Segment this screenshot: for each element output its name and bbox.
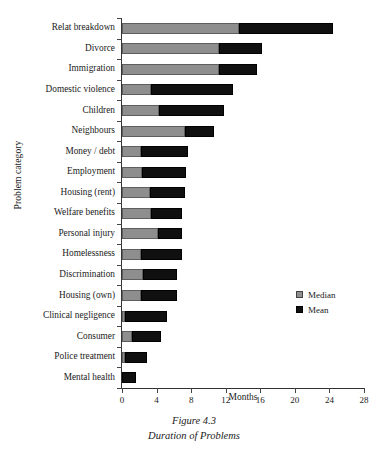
bar-segment-median [122, 228, 158, 239]
y-tick-mark [117, 285, 122, 286]
y-tick-mark [117, 224, 122, 225]
category-label: Personal injury [58, 227, 115, 240]
bar-segment-mean [151, 208, 181, 219]
bar-row: Employment [122, 167, 364, 178]
bar-segment-median [122, 23, 239, 34]
bar-segment-mean [219, 43, 262, 54]
category-label: Relat breakdown [52, 21, 115, 34]
category-label: Money / debt [65, 145, 115, 158]
legend-label-mean: Mean [308, 305, 329, 315]
bar-segment-mean [159, 105, 224, 116]
bar-row: Domestic violence [122, 84, 364, 95]
bar-segment-mean [142, 167, 186, 178]
y-tick-mark [117, 39, 122, 40]
y-tick-mark [117, 59, 122, 60]
legend-item-mean: Mean [296, 303, 336, 316]
y-tick-mark [117, 80, 122, 81]
bar-segment-mean [150, 187, 185, 198]
category-label: Divorce [85, 42, 115, 55]
bar-segment-mean [141, 146, 188, 157]
bar-row: Mental health [122, 372, 364, 383]
y-tick-mark [117, 203, 122, 204]
bar-segment-mean [158, 228, 181, 239]
bar-segment-mean [141, 249, 182, 260]
category-label: Employment [67, 165, 115, 178]
y-tick-mark [117, 18, 122, 19]
bar-segment-mean [125, 352, 147, 363]
category-label: Police treatment [54, 350, 115, 363]
bar-segment-mean [151, 84, 232, 95]
bar-segment-median [122, 249, 141, 260]
bar-row: Immigration [122, 64, 364, 75]
bar-row: Neighbours [122, 126, 364, 137]
category-label: Clinical negligence [43, 309, 115, 322]
bar-row: Money / debt [122, 146, 364, 157]
bar-row: Children [122, 105, 364, 116]
legend-swatch-mean-icon [296, 306, 303, 313]
bar-segment-median [122, 290, 141, 301]
y-tick-mark [117, 326, 122, 327]
bar-segment-mean [132, 331, 161, 342]
y-tick-mark [117, 141, 122, 142]
figure-duration-of-problems: Problem category 0481216202428 Relat bre… [0, 0, 388, 455]
legend-swatch-median-icon [296, 291, 303, 298]
bar-segment-median [122, 187, 150, 198]
x-tick-mark [364, 388, 365, 393]
bar-segment-median [122, 84, 151, 95]
y-tick-mark [117, 388, 122, 389]
bar-row: Consumer [122, 331, 364, 342]
bar-segment-mean [185, 126, 214, 137]
y-tick-mark [117, 244, 122, 245]
category-label: Immigration [69, 62, 115, 75]
bar-row: Police treatment [122, 352, 364, 363]
category-label: Children [82, 104, 115, 117]
bar-row: Relat breakdown [122, 23, 364, 34]
y-tick-mark [117, 306, 122, 307]
y-tick-mark [117, 100, 122, 101]
bar-segment-median [122, 269, 143, 280]
x-axis-title: Months [122, 392, 364, 402]
legend-label-median: Median [308, 290, 336, 300]
plot-area: 0481216202428 Relat breakdownDivorceImmi… [122, 18, 364, 388]
y-tick-mark [117, 182, 122, 183]
y-tick-mark [117, 265, 122, 266]
legend: Median Mean [296, 288, 336, 318]
bar-segment-median [122, 167, 142, 178]
bar-segment-median [122, 43, 219, 54]
category-label: Welfare benefits [54, 206, 115, 219]
bar-segment-mean [219, 64, 257, 75]
y-tick-mark [117, 347, 122, 348]
category-label: Discrimination [59, 268, 115, 281]
caption-line-number: Figure 4.3 [0, 413, 388, 428]
bar-segment-mean [141, 290, 177, 301]
bar-row: Discrimination [122, 269, 364, 280]
bar-segment-mean [239, 23, 333, 34]
bar-segment-mean [122, 372, 136, 383]
bar-row: Housing (rent) [122, 187, 364, 198]
y-tick-mark [117, 121, 122, 122]
bar-segment-median [122, 126, 185, 137]
bar-segment-median [122, 64, 219, 75]
bar-segment-median [122, 331, 132, 342]
category-label: Consumer [77, 330, 115, 343]
y-tick-mark [117, 367, 122, 368]
bar-row: Welfare benefits [122, 208, 364, 219]
category-label: Neighbours [72, 124, 115, 137]
caption-line-title: Duration of Problems [0, 428, 388, 443]
y-axis-title: Problem category [13, 110, 23, 240]
category-label: Housing (rent) [61, 186, 115, 199]
category-label: Domestic violence [46, 83, 115, 96]
figure-caption: Figure 4.3 Duration of Problems [0, 413, 388, 443]
legend-item-median: Median [296, 288, 336, 301]
category-label: Housing (own) [59, 289, 115, 302]
bar-segment-median [122, 105, 159, 116]
bar-segment-median [122, 146, 141, 157]
bar-row: Homelessness [122, 249, 364, 260]
y-tick-mark [117, 162, 122, 163]
bar-segment-median [122, 208, 151, 219]
bar-row: Personal injury [122, 228, 364, 239]
category-label: Mental health [64, 371, 115, 384]
bar-segment-mean [143, 269, 178, 280]
bar-segment-mean [125, 311, 166, 322]
category-label: Homelessness [62, 247, 115, 260]
